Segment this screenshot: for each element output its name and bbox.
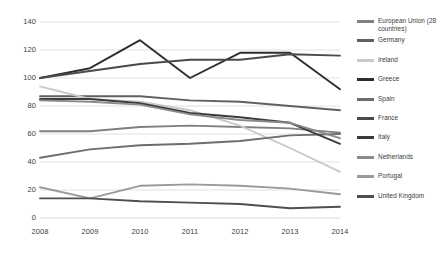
legend-item[interactable]: Greece: [357, 75, 447, 85]
legend-color-swatch: [357, 195, 374, 198]
legend-item[interactable]: Portugal: [357, 172, 447, 182]
legend-color-swatch: [357, 98, 374, 101]
legend-item-label: United Kingdom: [378, 192, 424, 200]
legend-item[interactable]: Germany: [357, 36, 447, 46]
x-axis-tick-label: 2013: [270, 228, 310, 236]
legend-item-label: Germany: [378, 36, 405, 44]
plot-area: 020406080100120140 200820092010201120122…: [0, 0, 355, 257]
legend-item-label: Spain: [378, 95, 395, 103]
legend-item[interactable]: France: [357, 114, 447, 124]
legend-item-label: Greece: [378, 75, 399, 83]
x-axis-tick-label: 2008: [20, 228, 60, 236]
x-axis-tick-label: 2010: [120, 228, 160, 236]
x-axis-tick-label: 2012: [220, 228, 260, 236]
legend-item-label: European Union (28 countries): [378, 17, 444, 33]
legend-item[interactable]: United Kingdom: [357, 192, 447, 202]
x-axis-tick-label: 2014: [320, 228, 360, 236]
legend-item-label: Netherlands: [378, 153, 413, 161]
chart-legend: European Union (28 countries)GermanyIrel…: [357, 17, 447, 211]
legend-color-swatch: [357, 39, 374, 42]
legend-item[interactable]: Italy: [357, 133, 447, 143]
legend-color-swatch: [357, 156, 374, 159]
legend-item-label: Ireland: [378, 56, 398, 64]
legend-color-swatch: [357, 78, 374, 81]
legend-color-swatch: [357, 136, 374, 139]
legend-color-swatch: [357, 59, 374, 62]
legend-item-label: Portugal: [378, 172, 402, 180]
x-axis-ticks: 2008200920102011201220132014: [0, 0, 355, 257]
legend-item[interactable]: Ireland: [357, 56, 447, 66]
legend-item-label: France: [378, 114, 398, 122]
x-axis-tick-label: 2011: [170, 228, 210, 236]
legend-item-label: Italy: [378, 133, 390, 141]
line-chart: 020406080100120140 200820092010201120122…: [0, 0, 447, 257]
legend-item[interactable]: European Union (28 countries): [357, 17, 447, 27]
legend-item[interactable]: Spain: [357, 95, 447, 105]
legend-item[interactable]: Netherlands: [357, 153, 447, 163]
legend-color-swatch: [357, 175, 374, 178]
legend-color-swatch: [357, 20, 374, 23]
legend-color-swatch: [357, 117, 374, 120]
x-axis-tick-label: 2009: [70, 228, 110, 236]
